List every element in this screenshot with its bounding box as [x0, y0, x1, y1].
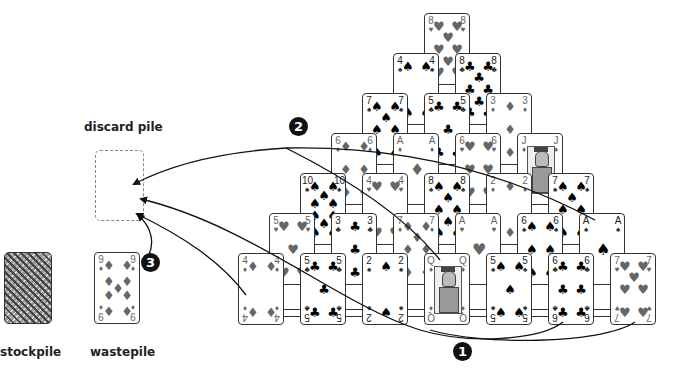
step-marker-1: 1	[453, 342, 472, 361]
card-index: 3♣	[365, 216, 375, 234]
discard-pile-label: discard pile	[84, 120, 163, 134]
spade-icon: ♠	[525, 220, 539, 233]
diamond-icon: ♦	[246, 306, 260, 319]
spade-icon: ♠	[364, 304, 374, 312]
card-connector	[470, 309, 486, 310]
card-index: 2♦	[488, 176, 498, 194]
spade-icon: ♠	[419, 60, 433, 73]
card-connector	[470, 316, 486, 317]
step-marker-3: 3	[141, 253, 160, 272]
pyramid-card-r7-c1[interactable]: 4♦4♦4♦4♦♦♦♦♦	[238, 253, 284, 325]
spade-icon: ♠	[494, 260, 508, 273]
spade-icon: ♠	[503, 283, 517, 296]
club-icon: ♣	[574, 283, 588, 296]
card-index: 2♠	[364, 256, 374, 274]
diamond-icon: ♦	[520, 106, 530, 114]
spade-icon: ♠	[512, 260, 526, 273]
diamond-icon: ♦	[357, 140, 371, 153]
card-index: 2♠	[364, 304, 374, 322]
spade-icon: ♠	[543, 220, 557, 233]
card-index: A♦	[395, 136, 405, 154]
stockpile-label: stockpile	[0, 345, 61, 359]
heart-icon: ♥	[472, 243, 486, 256]
club-icon: ♣	[450, 100, 464, 113]
spade-icon: ♠	[379, 260, 393, 273]
diamond-icon: ♦	[102, 305, 116, 318]
spade-icon: ♠	[401, 60, 415, 73]
pyramid-card-r7-c7[interactable]: 7♥7♥7♥7♥♥♥♥♥♥♥♥	[610, 253, 656, 325]
heart-icon: ♥	[295, 220, 309, 233]
card-index: A♥	[489, 216, 499, 234]
wastepile-card[interactable]: 9♦9♦9♦9♦♦♦♦♦♦♦♦♦♦	[94, 252, 140, 324]
heart-icon: ♥	[457, 226, 467, 234]
pyramid-card-r7-c5[interactable]: 5♠5♠5♠5♠♠♠♠♠♠	[486, 253, 532, 325]
diamond-icon: ♦	[503, 123, 517, 136]
pyramid-solitaire-diagram: discard pile stockpile 9♦9♦9♦9♦♦♦♦♦♦♦♦♦♦…	[0, 0, 679, 373]
diamond-icon: ♦	[503, 180, 517, 193]
card-connector	[532, 309, 548, 310]
club-icon: ♣	[365, 226, 375, 234]
club-icon: ♣	[326, 306, 340, 319]
diamond-icon: ♦	[102, 259, 116, 272]
club-icon: ♣	[574, 260, 588, 273]
club-icon: ♣	[333, 226, 343, 234]
heart-icon: ♥	[370, 180, 384, 193]
stockpile-card-back[interactable]	[4, 252, 52, 324]
card-connector	[346, 316, 362, 317]
card-rank: 2	[396, 312, 406, 322]
diamond-icon: ♦	[120, 259, 134, 272]
spade-icon: ♠	[379, 306, 393, 319]
club-icon: ♣	[308, 260, 322, 273]
club-icon: ♣	[574, 306, 588, 319]
diamond-icon: ♦	[264, 260, 278, 273]
pyramid-card-r7-c4[interactable]: Q♦Q♦Q♦Q♦	[424, 253, 470, 325]
club-icon: ♣	[326, 260, 340, 273]
diamond-icon: ♦	[488, 186, 498, 194]
diamond-icon: ♦	[395, 146, 405, 154]
club-icon: ♣	[556, 283, 570, 296]
diamond-icon: ♦	[120, 289, 134, 302]
diamond-icon: ♦	[120, 305, 134, 318]
pyramid-card-r7-c6[interactable]: 6♣6♣6♣6♣♣♣♣♣♣♣	[548, 253, 594, 325]
pyramid-card-r7-c3[interactable]: 2♠2♠2♠2♠♠♠	[362, 253, 408, 325]
club-icon: ♣	[348, 220, 362, 233]
card-index: A♦	[427, 136, 437, 154]
club-icon: ♣	[441, 123, 455, 136]
card-connector	[594, 309, 610, 310]
diamond-icon: ♦	[503, 226, 517, 239]
diamond-icon: ♦	[503, 100, 517, 113]
diamond-icon: ♦	[339, 140, 353, 153]
card-connector	[408, 316, 424, 317]
spade-icon: ♠	[396, 266, 406, 274]
heart-icon: ♥	[636, 283, 650, 296]
diamond-icon: ♦	[410, 163, 424, 176]
spade-icon: ♠	[581, 226, 591, 234]
spade-icon: ♠	[364, 266, 374, 274]
diamond-icon: ♦	[102, 289, 116, 302]
club-icon: ♣	[348, 266, 362, 279]
pyramid-card-r7-c2[interactable]: 5♣5♣5♣5♣♣♣♣♣♣	[300, 253, 346, 325]
spade-icon: ♠	[596, 243, 610, 256]
step-marker-2: 2	[289, 117, 308, 136]
card-index: 2♦	[520, 176, 530, 194]
card-index: A♠	[613, 216, 623, 234]
discard-pile[interactable]	[95, 150, 144, 221]
diamond-icon: ♦	[503, 146, 517, 159]
card-index: 3♦	[488, 96, 498, 114]
heart-icon: ♥	[489, 226, 499, 234]
card-rank: 2	[364, 312, 374, 322]
heart-icon: ♥	[618, 283, 632, 296]
heart-icon: ♥	[618, 306, 632, 319]
heart-icon: ♥	[463, 140, 477, 153]
card-connector	[346, 309, 362, 310]
club-icon: ♣	[348, 243, 362, 256]
card-connector	[594, 316, 610, 317]
card-index: 2♠	[396, 256, 406, 274]
club-icon: ♣	[556, 306, 570, 319]
card-connector	[284, 316, 300, 317]
card-index: 3♣	[333, 216, 343, 234]
spade-icon: ♠	[396, 304, 406, 312]
diamond-icon: ♦	[427, 146, 437, 154]
heart-icon: ♥	[388, 180, 402, 193]
club-icon: ♣	[308, 306, 322, 319]
